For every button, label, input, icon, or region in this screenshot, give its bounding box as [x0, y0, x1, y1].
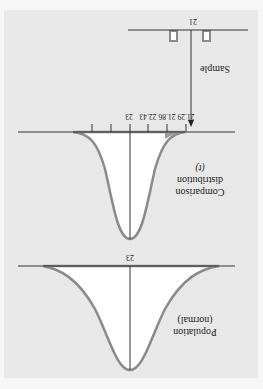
comparison-label-2: distribution — [177, 175, 223, 186]
sample-mean-label: 21 — [189, 17, 197, 26]
figure: 23 Population (normal) 21.29 21.86 22.43… — [0, 0, 263, 389]
tick-label: 21.29 — [177, 112, 194, 121]
tick-label: 22.43 — [139, 112, 156, 121]
population-mean-label: 23 — [126, 253, 134, 262]
tick-label: 21.86 — [158, 112, 175, 121]
population-label-2: (normal) — [178, 314, 213, 326]
comparison-label-3: (t) — [195, 162, 205, 174]
tick-label: 23 — [125, 112, 133, 121]
sample-label: Sample — [199, 64, 230, 75]
sample-bar — [203, 31, 210, 41]
sample-bar — [170, 31, 177, 41]
population-label: Population — [173, 327, 216, 338]
comparison-label: Comparison — [176, 187, 225, 198]
